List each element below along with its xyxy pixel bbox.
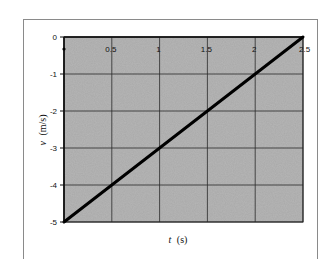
y-tick-label: -2 bbox=[50, 107, 58, 116]
x-tick-label: 2.5 bbox=[299, 45, 311, 54]
x-tick-label: 1.5 bbox=[201, 45, 213, 54]
y-tick-labels: 0-1-2-3-4-5 bbox=[50, 33, 64, 227]
y-axis-label: v (m/s) bbox=[37, 114, 49, 145]
y-axis-unit: (m/s) bbox=[37, 114, 49, 135]
y-tick-label: -3 bbox=[50, 144, 58, 153]
x-tick-label: 1 bbox=[156, 45, 161, 54]
origin-marker bbox=[62, 47, 65, 50]
x-tick-label: 0.5 bbox=[105, 45, 117, 54]
y-tick-label: -5 bbox=[50, 218, 58, 227]
x-axis-label: t (s) bbox=[169, 234, 188, 246]
y-tick-label: 0 bbox=[53, 33, 58, 42]
x-tick-label: 2 bbox=[252, 45, 257, 54]
x-axis-unit: (s) bbox=[177, 234, 188, 246]
y-axis-var: v bbox=[37, 141, 48, 146]
y-tick-label: -1 bbox=[50, 70, 58, 79]
x-axis-var: t bbox=[169, 234, 172, 245]
y-tick-label: -4 bbox=[50, 181, 58, 190]
